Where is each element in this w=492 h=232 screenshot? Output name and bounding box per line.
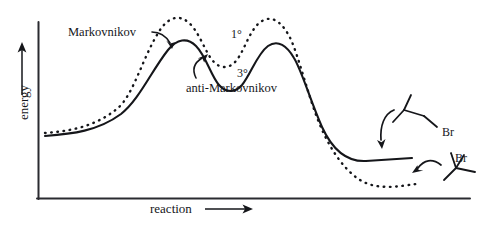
markovnikov-product-leader-arrow [412,161,441,173]
primary-intermediate-label: 1° [231,28,242,40]
anti-markovnikov-structure [393,95,437,127]
anti-markovnikov-leader-arrow [194,54,208,78]
markovnikov-label: Markovnikov [68,26,136,39]
anti-markovnikov-curve [45,40,412,161]
x-axis-label: reaction [150,202,192,215]
anti-markovnikov-product-leader-arrow [377,110,394,149]
energy-diagram-figure: Markovnikov anti-Markovnikov 1° 3° Br Br… [0,0,492,232]
y-axis-label: energy [17,71,30,135]
bromine-label-anti-markovnikov: Br [442,126,454,138]
anti-markovnikov-label: anti-Markovnikov [186,82,277,95]
reaction-axis-arrow [205,205,253,214]
tertiary-intermediate-label: 3° [237,67,248,79]
bromine-label-markovnikov: Br [455,152,467,164]
markovnikov-leader-arrow [152,32,175,49]
